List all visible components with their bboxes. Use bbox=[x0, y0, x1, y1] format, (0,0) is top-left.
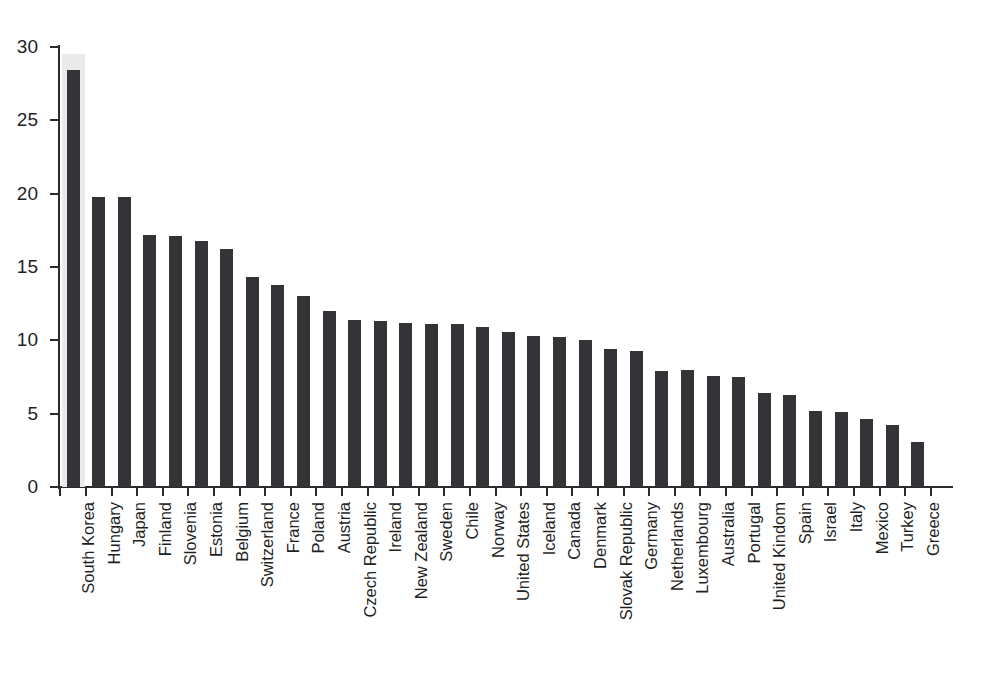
x-axis-tick bbox=[776, 487, 778, 496]
x-axis-tick-label: South Korea bbox=[80, 500, 97, 679]
bar[interactable] bbox=[630, 351, 643, 487]
bar-chart-figure: 051015202530 South KoreaHungaryJapanFinl… bbox=[0, 0, 984, 679]
x-axis-tick-label: Finland bbox=[157, 500, 174, 679]
x-axis-tick-label: New Zealand bbox=[413, 500, 430, 679]
x-axis-tick bbox=[239, 487, 241, 496]
x-axis-tick bbox=[520, 487, 522, 496]
x-axis-tick-label: Portugal bbox=[746, 500, 763, 679]
bar[interactable] bbox=[425, 324, 438, 487]
x-axis-tick bbox=[59, 487, 61, 496]
x-axis-tick bbox=[367, 487, 369, 496]
x-axis-tick-label: Italy bbox=[848, 500, 865, 679]
x-axis-tick bbox=[290, 487, 292, 496]
x-axis-tick bbox=[264, 487, 266, 496]
x-axis-tick-label: Norway bbox=[490, 500, 507, 679]
x-axis-tick-label: Iceland bbox=[541, 500, 558, 679]
bar[interactable] bbox=[143, 235, 156, 487]
bar[interactable] bbox=[502, 332, 515, 487]
x-axis-tick-label: Greece bbox=[925, 500, 942, 679]
x-axis-tick bbox=[571, 487, 573, 496]
x-axis-tick bbox=[418, 487, 420, 496]
x-axis-tick bbox=[315, 487, 317, 496]
y-axis-tick-label: 10 bbox=[0, 330, 38, 349]
bar[interactable] bbox=[246, 277, 259, 487]
x-axis-tick bbox=[495, 487, 497, 496]
x-axis-tick bbox=[623, 487, 625, 496]
x-axis-tick-label: Chile bbox=[464, 500, 481, 679]
bar[interactable] bbox=[553, 337, 566, 487]
bar[interactable] bbox=[67, 70, 80, 487]
x-axis-tick-label: Israel bbox=[822, 500, 839, 679]
y-axis-tick-label: 15 bbox=[0, 257, 38, 276]
x-axis-tick-label: Slovenia bbox=[182, 500, 199, 679]
bar[interactable] bbox=[476, 327, 489, 487]
bar[interactable] bbox=[783, 395, 796, 487]
x-axis-tick bbox=[879, 487, 881, 496]
x-axis-tick-label: Germany bbox=[643, 500, 660, 679]
x-axis-tick-label: Estonia bbox=[208, 500, 225, 679]
x-axis-tick bbox=[597, 487, 599, 496]
bar[interactable] bbox=[732, 377, 745, 487]
x-axis-tick bbox=[136, 487, 138, 496]
y-axis-tick-label: 25 bbox=[0, 110, 38, 129]
x-axis-tick-label: Denmark bbox=[592, 500, 609, 679]
bar[interactable] bbox=[655, 371, 668, 487]
y-axis-tick-label: 5 bbox=[0, 404, 38, 423]
bar[interactable] bbox=[195, 241, 208, 487]
x-axis-tick-label: Spain bbox=[797, 500, 814, 679]
bar[interactable] bbox=[374, 321, 387, 487]
bar[interactable] bbox=[681, 370, 694, 487]
x-axis-tick-label: Mexico bbox=[874, 500, 891, 679]
x-axis-tick-label: Sweden bbox=[438, 500, 455, 679]
bar[interactable] bbox=[323, 311, 336, 487]
x-axis-tick-label: Australia bbox=[720, 500, 737, 679]
x-axis-tick bbox=[853, 487, 855, 496]
bar[interactable] bbox=[860, 419, 873, 487]
x-axis-tick bbox=[904, 487, 906, 496]
x-axis-tick-label: United States bbox=[515, 500, 532, 679]
bar[interactable] bbox=[451, 324, 464, 487]
x-axis-tick-label: Netherlands bbox=[669, 500, 686, 679]
x-axis-tick bbox=[725, 487, 727, 496]
x-axis-tick-label: Ireland bbox=[387, 500, 404, 679]
bar[interactable] bbox=[220, 249, 233, 487]
y-axis-tick-label: 20 bbox=[0, 184, 38, 203]
bar[interactable] bbox=[809, 411, 822, 487]
x-axis-tick-label: Slovak Republic bbox=[618, 500, 635, 679]
bar[interactable] bbox=[399, 323, 412, 487]
bar[interactable] bbox=[911, 442, 924, 487]
x-axis-tick-label: Poland bbox=[310, 500, 327, 679]
x-axis-tick bbox=[930, 487, 932, 496]
bar[interactable] bbox=[886, 425, 899, 487]
x-axis-tick-label: United Kindom bbox=[771, 500, 788, 679]
x-axis-tick bbox=[827, 487, 829, 496]
x-axis-tick bbox=[802, 487, 804, 496]
bar[interactable] bbox=[527, 336, 540, 487]
bar[interactable] bbox=[835, 412, 848, 487]
x-axis-tick bbox=[648, 487, 650, 496]
x-axis-tick bbox=[674, 487, 676, 496]
x-axis-tick bbox=[469, 487, 471, 496]
x-axis-tick-label: Austria bbox=[336, 500, 353, 679]
bar[interactable] bbox=[758, 393, 771, 487]
x-axis-tick bbox=[751, 487, 753, 496]
x-axis-tick bbox=[699, 487, 701, 496]
x-axis-tick bbox=[546, 487, 548, 496]
bar[interactable] bbox=[92, 197, 105, 487]
x-axis-tick-label: Switzerland bbox=[259, 500, 276, 679]
x-axis-tick-label: Turkey bbox=[899, 500, 916, 679]
x-axis-tick bbox=[341, 487, 343, 496]
x-axis-tick bbox=[213, 487, 215, 496]
bar[interactable] bbox=[579, 340, 592, 487]
bar[interactable] bbox=[169, 236, 182, 487]
bar[interactable] bbox=[271, 285, 284, 487]
bar[interactable] bbox=[118, 197, 131, 487]
bar[interactable] bbox=[707, 376, 720, 487]
x-axis-tick-label: Hungary bbox=[106, 500, 123, 679]
x-axis-tick bbox=[187, 487, 189, 496]
plot-area bbox=[58, 47, 966, 487]
bar[interactable] bbox=[348, 320, 361, 487]
bar[interactable] bbox=[297, 296, 310, 487]
bar[interactable] bbox=[604, 349, 617, 487]
x-axis-tick-label: France bbox=[285, 500, 302, 679]
